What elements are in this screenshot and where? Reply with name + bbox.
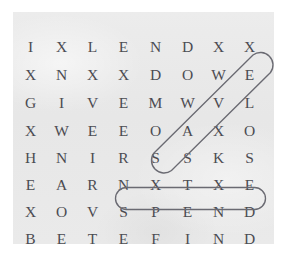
grid-letter[interactable]: V (77, 198, 108, 225)
grid-letter[interactable]: E (108, 225, 139, 244)
grid-letter[interactable]: W (172, 89, 203, 116)
grid-row: XWEEOAXO (13, 117, 274, 144)
grid-letter[interactable]: A (46, 171, 77, 198)
grid-letter[interactable]: N (108, 171, 139, 198)
grid-letter[interactable]: S (140, 144, 171, 171)
grid-letter[interactable]: X (15, 117, 46, 144)
grid-letter[interactable]: O (172, 61, 203, 88)
letter-grid: IXLENDXXXNXXDOWEGIVEMWVLXWEEOAXOHNIRSSKS… (13, 12, 274, 244)
grid-letter[interactable]: E (108, 89, 139, 116)
grid-letter[interactable]: L (77, 33, 108, 60)
grid-letter[interactable]: E (172, 198, 203, 225)
grid-letter[interactable]: H (15, 144, 46, 171)
grid-letter[interactable]: S (234, 144, 265, 171)
grid-letter[interactable]: N (46, 144, 77, 171)
grid-letter[interactable]: W (203, 61, 234, 88)
grid-letter[interactable]: E (77, 117, 108, 144)
grid-letter[interactable]: R (108, 144, 139, 171)
grid-letter[interactable]: M (140, 89, 171, 116)
grid-letter[interactable]: N (140, 33, 171, 60)
grid-letter[interactable]: X (140, 171, 171, 198)
grid-letter[interactable]: V (203, 89, 234, 116)
grid-row: XNXXDOWE (13, 61, 274, 88)
grid-row: EARNXTXE (13, 171, 274, 198)
grid-letter[interactable]: E (234, 171, 265, 198)
grid-letter[interactable]: V (77, 89, 108, 116)
grid-letter[interactable]: X (15, 198, 46, 225)
grid-row: HNIRSSKS (13, 144, 274, 171)
grid-letter[interactable]: K (203, 144, 234, 171)
grid-letter[interactable]: X (46, 33, 77, 60)
grid-letter[interactable]: S (108, 198, 139, 225)
grid-row: GIVEMWVL (13, 89, 274, 116)
grid-letter[interactable]: A (172, 117, 203, 144)
grid-letter[interactable]: X (203, 117, 234, 144)
grid-letter[interactable]: O (46, 198, 77, 225)
grid-letter[interactable]: N (46, 61, 77, 88)
grid-letter[interactable]: X (77, 61, 108, 88)
grid-letter[interactable]: X (15, 61, 46, 88)
grid-letter[interactable]: O (234, 117, 265, 144)
grid-letter[interactable]: T (172, 171, 203, 198)
grid-letter[interactable]: N (203, 225, 234, 244)
grid-letter[interactable]: F (140, 225, 171, 244)
word-search-figure: IXLENDXXXNXXDOWEGIVEMWVLXWEEOAXOHNIRSSKS… (0, 0, 286, 254)
grid-letter[interactable]: N (203, 198, 234, 225)
grid-letter[interactable]: P (140, 198, 171, 225)
grid-letter[interactable]: E (234, 61, 265, 88)
grid-letter[interactable]: O (140, 117, 171, 144)
grid-letter[interactable]: I (15, 33, 46, 60)
grid-letter[interactable]: W (46, 117, 77, 144)
grid-letter[interactable]: X (203, 171, 234, 198)
grid-row: BETEFIND (13, 225, 274, 244)
grid-letter[interactable]: X (234, 33, 265, 60)
grid-letter[interactable]: E (15, 171, 46, 198)
grid-letter[interactable]: X (203, 33, 234, 60)
grid-letter[interactable]: D (172, 33, 203, 60)
grid-letter[interactable]: E (108, 117, 139, 144)
grid-letter[interactable]: E (46, 225, 77, 244)
grid-letter[interactable]: E (108, 33, 139, 60)
grid-letter[interactable]: S (172, 144, 203, 171)
grid-letter[interactable]: X (108, 61, 139, 88)
grid-letter[interactable]: I (172, 225, 203, 244)
grid-letter[interactable]: R (77, 171, 108, 198)
grid-letter[interactable]: T (77, 225, 108, 244)
grid-letter[interactable]: D (234, 225, 265, 244)
grid-row: IXLENDXX (13, 33, 274, 60)
puzzle-panel: IXLENDXXXNXXDOWEGIVEMWVLXWEEOAXOHNIRSSKS… (13, 12, 274, 244)
grid-letter[interactable]: B (15, 225, 46, 244)
grid-letter[interactable]: D (234, 198, 265, 225)
grid-letter[interactable]: I (77, 144, 108, 171)
grid-letter[interactable]: I (46, 89, 77, 116)
grid-letter[interactable]: D (140, 61, 171, 88)
grid-row: XOVSPEND (13, 198, 274, 225)
grid-letter[interactable]: G (15, 89, 46, 116)
grid-letter[interactable]: L (234, 89, 265, 116)
